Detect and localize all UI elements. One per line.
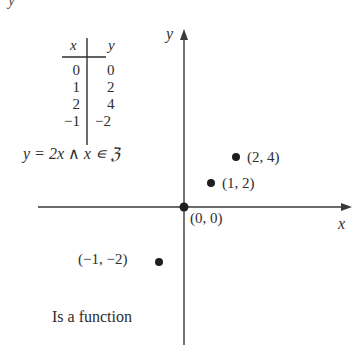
y-axis-arrow-icon — [180, 29, 188, 40]
point-label-origin: (0, 0) — [190, 211, 223, 226]
conclusion-text: Is a function — [52, 309, 132, 325]
y-axis-label: y — [166, 26, 173, 42]
x-axis-label: x — [338, 216, 345, 232]
point-2-4 — [232, 153, 240, 161]
point-label-2-4: (2, 4) — [247, 150, 280, 165]
point-1-2 — [207, 179, 215, 187]
point-neg1-neg2 — [155, 258, 163, 266]
point-label-neg1-neg2: (−1, −2) — [78, 252, 127, 267]
x-axis-arrow-icon — [341, 203, 352, 211]
point-origin — [180, 203, 189, 212]
point-label-1-2: (1, 2) — [222, 176, 255, 191]
